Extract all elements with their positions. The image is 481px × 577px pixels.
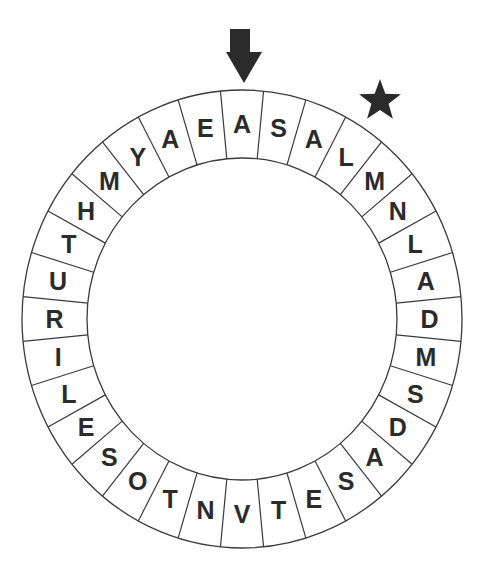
wheel-letter: D [420,305,438,333]
wheel-letter: N [389,197,407,225]
wheel-letter: A [233,110,251,138]
inner-ring [87,158,397,480]
wheel-letter: V [234,500,251,528]
segment-divider [48,395,105,427]
outer-ring [22,90,462,548]
wheel-letter: A [366,443,384,471]
wheel-letter: T [271,496,286,524]
wheel-letter: L [408,230,423,258]
wheel-letter: T [163,485,178,513]
wheel-letter: M [99,167,120,195]
segment-divider [287,473,306,538]
wheel-letter: R [45,305,63,333]
wheel-letter: Y [129,143,146,171]
wheel-letter: L [339,143,354,171]
segment-dividers [23,91,461,547]
letter-wheel: ASALMNLADMSDASETVNTOSELIRUTHMYAE [0,0,481,577]
wheel-letter: S [101,443,118,471]
wheel-letter: S [338,467,355,495]
wheel-letter: O [128,467,147,495]
wheel-rings [22,90,462,548]
wheel-letter: I [55,343,62,371]
wheel-letter: A [161,125,179,153]
wheel-letter: E [305,485,322,513]
wheel-letter: U [49,267,67,295]
wheel-letter: L [61,380,76,408]
wheel-letter: D [389,413,407,441]
wheel-letter: S [407,380,424,408]
wheel-letter: M [364,167,385,195]
wheel-letter: E [78,413,95,441]
wheel-letter: E [197,114,214,142]
wheel-letter: M [415,343,436,371]
segment-divider [178,473,197,538]
segment-divider [220,479,226,547]
wheel-letter: A [417,267,435,295]
wheel-letters: ASALMNLADMSDASETVNTOSELIRUTHMYAE [45,110,438,528]
wheel-letter: A [305,125,323,153]
segment-divider [23,297,88,304]
segment-divider [220,91,226,159]
segment-divider [396,297,461,304]
segment-divider [257,91,263,159]
segment-divider [396,335,461,342]
arrow-down-icon [226,29,262,83]
star-icon [359,79,401,119]
wheel-letter: H [77,197,95,225]
wheel-letter: S [270,114,287,142]
wheel-letter: T [61,230,76,258]
segment-divider [287,100,306,165]
segment-divider [257,479,263,547]
segment-divider [178,100,197,165]
wheel-letter: N [196,496,214,524]
segment-divider [23,335,88,342]
